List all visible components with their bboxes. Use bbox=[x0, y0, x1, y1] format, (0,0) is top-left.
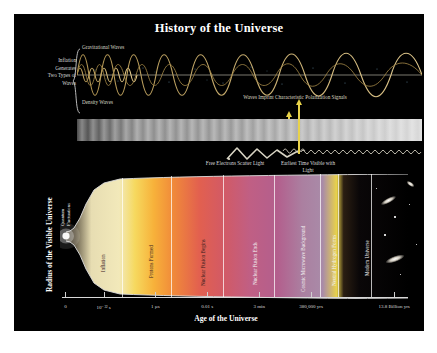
x-axis-tick-label: 13.8 Billion yrs bbox=[379, 304, 410, 309]
era-separator bbox=[320, 174, 321, 298]
x-axis-tick-label: 3 min bbox=[253, 304, 265, 309]
era-label-neutral-hydrogen-forms: Neutral Hydrogen Forms bbox=[331, 235, 337, 286]
era-separator bbox=[223, 175, 224, 298]
x-axis-tick-label: 1 µs bbox=[151, 304, 160, 309]
poster-panel: History of the Universe InflationGenerat… bbox=[14, 14, 424, 331]
x-axis-tick bbox=[155, 292, 156, 297]
star-dot bbox=[409, 204, 410, 205]
x-axis-tick bbox=[311, 292, 312, 297]
era-label-protons-formed: Protons Formed bbox=[148, 245, 154, 278]
star-dot bbox=[416, 244, 417, 245]
era-label-quantum-fluctuations: Quantum Fluctuations bbox=[60, 190, 72, 226]
universe-expansion-chart: Radius of the Visible Universe bbox=[28, 164, 424, 331]
density-waves-label: Density Waves bbox=[82, 100, 113, 105]
era-label-inflation: Inflation bbox=[100, 254, 106, 272]
x-axis-tick-label: 10⁻³² s bbox=[96, 304, 110, 310]
era-label-nuclear-fusion-ends: Nuclear Fusion Ends bbox=[252, 242, 258, 285]
gravitational-waves-label: Gravitational Waves bbox=[82, 45, 124, 50]
star-dot bbox=[384, 234, 386, 236]
x-axis-tick-label: 0 bbox=[64, 304, 67, 309]
page-title: History of the Universe bbox=[14, 22, 424, 35]
era-separator bbox=[122, 178, 123, 298]
y-axis-label: Radius of the Visible Universe bbox=[38, 197, 56, 292]
density-wave-band bbox=[77, 119, 422, 141]
era-separator bbox=[338, 174, 339, 298]
era-separator bbox=[371, 174, 372, 298]
era-separator bbox=[274, 175, 275, 298]
star-dot bbox=[394, 216, 396, 218]
x-axis-tick bbox=[65, 292, 66, 297]
x-axis-tick bbox=[104, 292, 105, 297]
x-axis-line bbox=[62, 297, 408, 298]
era-label-nuclear-fusion-begins: Nuclear Fusion Begins bbox=[200, 239, 206, 286]
era-label-modern-universe: Modern Universe bbox=[364, 240, 370, 276]
x-axis-tick bbox=[394, 292, 395, 297]
era-separator bbox=[171, 176, 172, 298]
inflation-generates-label: InflationGeneratesTwo Types ofWaves bbox=[30, 57, 76, 87]
x-axis-tick-label: 0.01 s bbox=[201, 304, 213, 309]
cmb-marker-arrow-icon bbox=[298, 104, 300, 154]
x-axis-tick-label: 380,000 yrs bbox=[299, 304, 323, 309]
x-axis-tick bbox=[207, 292, 208, 297]
expansion-cone bbox=[60, 174, 408, 299]
era-label-cosmic-microwave-background: Cosmic Microwave Background bbox=[300, 226, 306, 292]
x-axis-tick bbox=[259, 292, 260, 297]
x-axis-label: Age of the Universe bbox=[28, 314, 424, 323]
